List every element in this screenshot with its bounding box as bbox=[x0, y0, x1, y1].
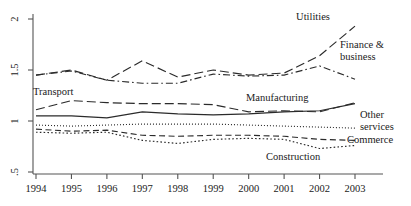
series-line-other-services bbox=[36, 124, 355, 128]
x-tick-label: 2002 bbox=[309, 183, 330, 194]
series-line-construction bbox=[36, 132, 355, 148]
annotation-other-services-line1: Other bbox=[360, 109, 384, 120]
line-chart: .511.52 19941995199619971998199920002001… bbox=[0, 0, 411, 206]
x-tick-label: 1997 bbox=[132, 183, 153, 194]
y-tick-label: 2 bbox=[9, 16, 20, 21]
x-tick-label: 1995 bbox=[61, 183, 82, 194]
annotation-finance-business-line1: Finance & bbox=[340, 39, 384, 50]
y-tick-label: 1.5 bbox=[9, 63, 20, 76]
annotation-finance-business-line2: business bbox=[340, 51, 376, 62]
y-tick-label: .5 bbox=[9, 168, 20, 176]
x-tick-label: 2000 bbox=[238, 183, 259, 194]
series-line-manufacturing bbox=[36, 104, 355, 118]
series-line-utilities bbox=[36, 26, 355, 80]
x-axis: 1994199519961997199819992000200120022003 bbox=[26, 174, 384, 194]
y-axis: .511.52 bbox=[9, 14, 33, 176]
x-tick-labels: 1994199519961997199819992000200120022003 bbox=[26, 183, 366, 194]
x-tick-label: 1996 bbox=[96, 183, 117, 194]
annotation-transport: Transport bbox=[33, 86, 74, 97]
series-line-commerce bbox=[36, 129, 355, 140]
x-tick-marks bbox=[36, 174, 355, 179]
x-tick-label: 1994 bbox=[26, 183, 48, 194]
annotation-construction: Construction bbox=[266, 151, 321, 162]
annotation-commerce: Commerce bbox=[347, 134, 393, 145]
y-tick-label: 1 bbox=[9, 118, 20, 123]
y-tick-labels: .511.52 bbox=[9, 16, 20, 176]
chart-canvas: .511.52 19941995199619971998199920002001… bbox=[0, 0, 411, 206]
series-line-finance-business bbox=[36, 66, 355, 83]
x-tick-label: 2001 bbox=[274, 183, 295, 194]
annotation-manufacturing: Manufacturing bbox=[246, 92, 309, 103]
annotation-other-services-line2: services bbox=[360, 121, 394, 132]
x-tick-label: 1998 bbox=[167, 183, 188, 194]
annotation-utilities: Utilities bbox=[296, 11, 330, 22]
x-tick-label: 1999 bbox=[203, 183, 224, 194]
x-tick-label: 2003 bbox=[345, 183, 366, 194]
data-series-group bbox=[36, 26, 355, 148]
